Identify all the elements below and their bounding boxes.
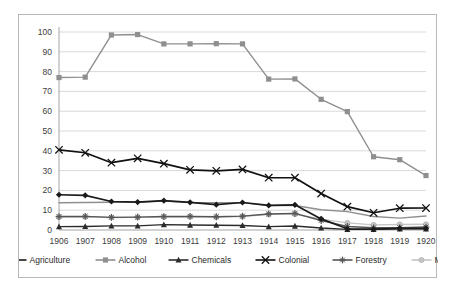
y-axis-tick-label: 90 <box>43 47 53 57</box>
data-point-marker <box>108 198 114 204</box>
legend-label: Metals <box>435 255 439 265</box>
x-axis-tick-label: 1909 <box>128 236 147 246</box>
data-point-marker <box>161 198 167 204</box>
chart-frame: 0102030405060708090100190619071908190919… <box>18 14 437 278</box>
data-point-marker <box>265 211 272 218</box>
legend-label: Forestry <box>356 255 388 265</box>
x-axis-tick-label: 1913 <box>233 236 252 246</box>
data-point-marker <box>239 213 246 220</box>
legend-label: Colonial <box>279 255 310 265</box>
legend-item-agriculture[interactable]: Agriculture <box>19 255 70 265</box>
data-point-marker <box>339 257 346 264</box>
legend-label: Chemicals <box>192 255 232 265</box>
x-axis-tick-label: 1918 <box>364 236 383 246</box>
data-point-marker <box>187 199 193 205</box>
legend-item-alcohol[interactable]: Alcohol <box>96 255 147 265</box>
y-axis-tick-label: 10 <box>43 205 53 215</box>
data-point-marker <box>292 76 297 81</box>
x-axis-tick-label: 1912 <box>207 236 226 246</box>
x-axis-tick-label: 1915 <box>285 236 304 246</box>
x-axis-tick-label: 1908 <box>102 236 121 246</box>
x-axis-tick-label: 1919 <box>390 236 409 246</box>
x-axis-tick-label: 1917 <box>338 236 357 246</box>
data-point-marker <box>83 75 88 80</box>
x-axis-tick-label: 1907 <box>76 236 95 246</box>
y-axis-tick-label: 80 <box>43 67 53 77</box>
data-point-marker <box>56 192 62 198</box>
x-axis-tick-label: 1920 <box>417 236 436 246</box>
x-axis-tick-label: 1914 <box>259 236 278 246</box>
data-point-marker <box>103 257 108 262</box>
data-point-marker <box>160 213 167 220</box>
data-point-marker <box>317 190 324 197</box>
data-point-marker <box>82 192 88 198</box>
data-point-marker <box>239 199 245 205</box>
data-point-marker <box>135 199 141 205</box>
y-axis-tick-label: 50 <box>43 126 53 136</box>
legend-item-colonial[interactable]: Colonial <box>256 255 310 265</box>
data-point-marker <box>419 257 424 262</box>
y-axis-tick-label: 40 <box>43 146 53 156</box>
data-point-marker <box>19 257 20 263</box>
y-axis-tick-label: 70 <box>43 86 53 96</box>
data-point-marker <box>213 213 220 220</box>
y-axis-tick-label: 60 <box>43 106 53 116</box>
data-point-marker <box>56 75 61 80</box>
data-point-marker <box>240 41 245 46</box>
data-point-marker <box>108 214 115 221</box>
x-axis: 1906190719081909191019111912191319141915… <box>50 236 436 246</box>
data-point-marker <box>214 41 219 46</box>
x-axis-tick-label: 1910 <box>154 236 173 246</box>
y-axis-tick-label: 20 <box>43 185 53 195</box>
data-point-marker <box>292 202 298 208</box>
data-point-marker <box>187 213 194 220</box>
y-axis-tick-label: 100 <box>38 27 52 37</box>
legend-label: Alcohol <box>119 255 147 265</box>
legend-label: Agriculture <box>30 255 71 265</box>
data-point-marker <box>56 213 63 220</box>
data-point-marker <box>371 154 376 159</box>
data-point-marker <box>266 77 271 82</box>
data-point-marker <box>319 97 324 102</box>
legend-item-chemicals[interactable]: Chemicals <box>169 255 232 265</box>
y-axis-tick-label: 0 <box>47 225 52 235</box>
x-axis-tick-label: 1911 <box>181 236 200 246</box>
data-point-marker <box>397 157 402 162</box>
x-axis-tick-label: 1916 <box>312 236 331 246</box>
series-alcohol <box>56 32 428 178</box>
data-point-marker <box>135 32 140 37</box>
data-point-marker <box>82 213 89 220</box>
data-point-marker <box>134 214 141 221</box>
x-axis-tick-label: 1906 <box>50 236 69 246</box>
data-point-marker <box>266 202 272 208</box>
data-point-marker <box>109 32 114 37</box>
chart-plot-area: 0102030405060708090100190619071908190919… <box>19 15 438 279</box>
data-point-marker <box>161 41 166 46</box>
legend-item-metals[interactable]: Metals <box>412 255 439 265</box>
legend-item-forestry[interactable]: Forestry <box>333 255 388 265</box>
line-chart: 0102030405060708090100190619071908190919… <box>19 15 438 279</box>
data-point-marker <box>423 173 428 178</box>
data-point-marker <box>345 109 350 114</box>
y-axis-tick-label: 30 <box>43 166 53 176</box>
data-point-marker <box>187 41 192 46</box>
